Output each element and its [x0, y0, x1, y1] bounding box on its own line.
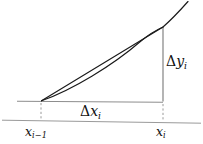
- variable-y: y: [176, 53, 184, 69]
- convex-curve-path: [42, 2, 189, 101]
- subscript-i-y: i: [184, 60, 187, 71]
- subscript-i-x: i: [98, 110, 101, 121]
- increment-diagram-figure: Δyi Δxi xi−1 xi: [0, 0, 203, 144]
- variable-x-previous: x: [25, 124, 32, 139]
- variable-x: x: [90, 103, 98, 119]
- delta-y-label: Δyi: [166, 54, 187, 68]
- x-current-label: xi: [156, 126, 166, 139]
- subscript-i-current: i: [163, 130, 166, 140]
- bottom-axis-line: [2, 120, 201, 123]
- delta-glyph-y: Δ: [166, 53, 176, 69]
- x-previous-label: xi−1: [25, 126, 47, 139]
- variable-x-current: x: [156, 124, 163, 139]
- subscript-i-minus-1: i−1: [32, 130, 47, 140]
- delta-x-label: Δxi: [80, 104, 101, 118]
- diagram-canvas: [0, 0, 203, 144]
- delta-glyph-x: Δ: [80, 103, 90, 119]
